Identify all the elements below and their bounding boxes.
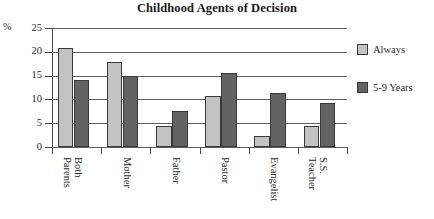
y-axis-tick-label: 15	[16, 70, 42, 81]
x-axis-tick-mark	[347, 147, 348, 154]
x-axis-tick-mark	[298, 147, 299, 154]
chart-title: Childhood Agents of Decision	[0, 1, 434, 16]
y-axis-tick-mark	[45, 99, 52, 100]
x-axis-category-label: Mother	[119, 157, 133, 217]
category-label-line-2: Teacher	[307, 157, 318, 217]
legend-item[interactable]: 5-9 Years	[357, 82, 413, 93]
y-axis-tick-label: 10	[16, 94, 42, 105]
category-label-line-1: S.S.	[318, 157, 329, 174]
plot-area	[52, 28, 347, 147]
category-label-line-1: Pastor	[220, 157, 231, 183]
bar[interactable]	[221, 73, 237, 147]
y-axis-tick-mark	[45, 123, 52, 124]
legend-label: Always	[373, 44, 405, 55]
x-axis-category-label: S.S.Teacher	[315, 157, 329, 217]
legend-swatch-icon	[357, 44, 368, 55]
bar[interactable]	[123, 76, 139, 147]
bar[interactable]	[254, 136, 270, 147]
legend-label: 5-9 Years	[373, 82, 413, 93]
bar[interactable]	[74, 80, 90, 147]
bar[interactable]	[172, 111, 188, 147]
legend-swatch-icon	[357, 82, 368, 93]
y-axis-tick-mark	[45, 76, 52, 77]
y-axis-tick-mark	[45, 147, 52, 148]
bar-group	[298, 28, 347, 147]
y-axis-tick-label: 25	[16, 23, 42, 34]
x-axis-category-label: BothParents	[70, 157, 84, 217]
y-axis-unit-label: %	[3, 21, 11, 32]
x-axis-tick-mark	[150, 147, 151, 154]
x-axis-tick-mark	[200, 147, 201, 154]
bar-group	[101, 28, 150, 147]
bar-group	[249, 28, 298, 147]
bar[interactable]	[58, 48, 74, 147]
category-label-line-1: Father	[171, 157, 182, 184]
bar[interactable]	[320, 103, 336, 147]
x-axis-tick-mark	[249, 147, 250, 154]
category-label-line-1: Mother	[122, 157, 133, 188]
bar[interactable]	[304, 126, 320, 147]
bar-group	[150, 28, 199, 147]
category-label-line-1: Evangelist	[269, 157, 280, 201]
x-axis-category-label: Evangelist	[266, 157, 280, 217]
x-axis-tick-mark	[52, 147, 53, 154]
x-axis-category-label: Pastor	[217, 157, 231, 217]
bar[interactable]	[107, 62, 123, 147]
y-axis-tick-label: 5	[16, 118, 42, 129]
y-axis-tick-mark	[45, 28, 52, 29]
bar[interactable]	[270, 93, 286, 147]
chart-container: Childhood Agents of Decision % 051015202…	[0, 0, 434, 219]
y-axis-tick-mark	[45, 52, 52, 53]
category-label-line-2: Parents	[62, 157, 73, 217]
category-label-line-1: Both	[73, 157, 84, 177]
bar[interactable]	[156, 126, 172, 147]
legend-item[interactable]: Always	[357, 44, 405, 55]
x-axis-tick-mark	[101, 147, 102, 154]
bar-group	[200, 28, 249, 147]
x-axis-category-label: Father	[168, 157, 182, 217]
bar[interactable]	[205, 96, 221, 147]
bar-group	[52, 28, 101, 147]
y-axis-tick-label: 0	[16, 142, 42, 153]
y-axis-tick-label: 20	[16, 46, 42, 57]
